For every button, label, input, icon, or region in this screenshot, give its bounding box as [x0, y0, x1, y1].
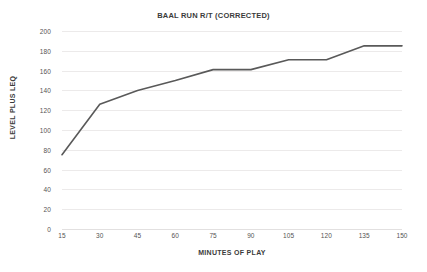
y-axis-tick-label: 160 — [0, 67, 56, 74]
x-axis-tick-label: 135 — [359, 232, 370, 239]
chart-container: BAAL RUN R/T (CORRECTED) LEVEL PLUS LEQ … — [0, 0, 427, 272]
x-axis-tick-label: 120 — [321, 232, 332, 239]
y-axis-tick-label: 140 — [0, 87, 56, 94]
x-axis-tick-labels: 153045607590105120135150 — [62, 232, 402, 244]
y-axis-tick-labels: 020406080100120140160180200 — [0, 31, 56, 229]
x-axis-tick-label: 45 — [134, 232, 141, 239]
chart-title: BAAL RUN R/T (CORRECTED) — [0, 11, 427, 20]
x-axis-tick-label: 15 — [58, 232, 65, 239]
y-axis-tick-label: 80 — [0, 146, 56, 153]
x-axis-tick-label: 75 — [209, 232, 216, 239]
x-axis-tick-label: 150 — [396, 232, 407, 239]
gridline — [62, 229, 402, 230]
x-axis-title: MINUTES OF PLAY — [62, 249, 402, 256]
x-axis-tick-label: 90 — [247, 232, 254, 239]
y-axis-tick-label: 100 — [0, 127, 56, 134]
y-axis-tick-label: 120 — [0, 107, 56, 114]
x-axis-tick-label: 30 — [96, 232, 103, 239]
series-line-path — [62, 46, 402, 155]
plot-area — [62, 31, 402, 229]
x-axis-tick-label: 60 — [172, 232, 179, 239]
y-axis-tick-label: 20 — [0, 206, 56, 213]
series-line-chart — [62, 31, 402, 229]
y-axis-tick-label: 200 — [0, 28, 56, 35]
y-axis-tick-label: 180 — [0, 47, 56, 54]
y-axis-tick-label: 0 — [0, 226, 56, 233]
y-axis-tick-label: 60 — [0, 166, 56, 173]
y-axis-tick-label: 40 — [0, 186, 56, 193]
x-axis-tick-label: 105 — [283, 232, 294, 239]
